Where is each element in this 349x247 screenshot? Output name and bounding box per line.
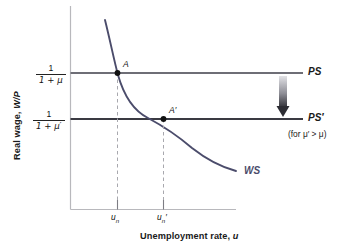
ws-curve-label: WS [244,166,260,176]
markup-condition-note: (for μ′ > μ) [288,130,326,138]
x-axis-title: Unemployment rate, u [140,232,239,241]
y-axis-title: Real wage, W/P [13,91,22,160]
point-A-prime-marker [161,116,167,122]
ps-prime-line-label: PS′ [308,113,324,123]
y-tick-label-1: 1 1 + μ [36,63,66,85]
ps-line-label: PS [308,67,321,77]
x-axis-title-italic: u [233,231,239,241]
x-tick-2-prime: ′ [165,212,167,222]
point-A-marker [115,70,121,76]
ws-curve [105,20,236,171]
shift-arrow-icon [277,76,290,117]
x-axis-title-text: Unemployment rate, [140,231,233,241]
y-tick-2-denominator: 1 + μ′ [33,121,65,132]
x-tick-1-sub: n [116,217,119,224]
point-A-label: A [123,60,129,69]
x-tick-label-1: un [111,213,119,224]
y-axis-title-italic: W/P [12,91,22,109]
y-axis-title-text: Real wage, [12,109,22,160]
y-tick-1-numerator: 1 [36,63,66,75]
point-A-prime-label: A′ [169,106,176,115]
x-tick-label-2: un′ [157,213,167,224]
y-tick-label-2: 1 1 + μ′ [33,109,65,131]
y-tick-1-denominator: 1 + μ [36,75,66,86]
economics-chart-figure: Real wage, W/P Unemployment rate, u 1 1 … [0,0,349,247]
y-tick-2-numerator: 1 [33,109,65,121]
